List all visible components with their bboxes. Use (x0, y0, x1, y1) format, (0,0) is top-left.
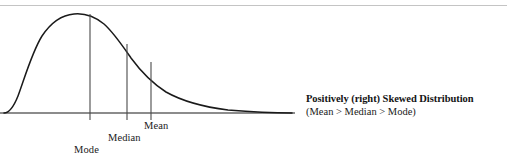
distribution-plot (0, 0, 507, 158)
density-curve (4, 14, 292, 113)
marker-label-mean: Mean (144, 120, 168, 131)
marker-lines-group (90, 14, 151, 120)
marker-label-median: Median (108, 132, 141, 143)
caption-subtitle: (Mean > Median > Mode) (306, 106, 506, 118)
skewed-distribution-figure: ModeMedianMean Positively (right) Skewed… (0, 0, 507, 158)
marker-label-mode: Mode (74, 144, 99, 155)
caption-block: Positively (right) Skewed Distribution (… (306, 93, 506, 118)
caption-title: Positively (right) Skewed Distribution (306, 93, 506, 105)
